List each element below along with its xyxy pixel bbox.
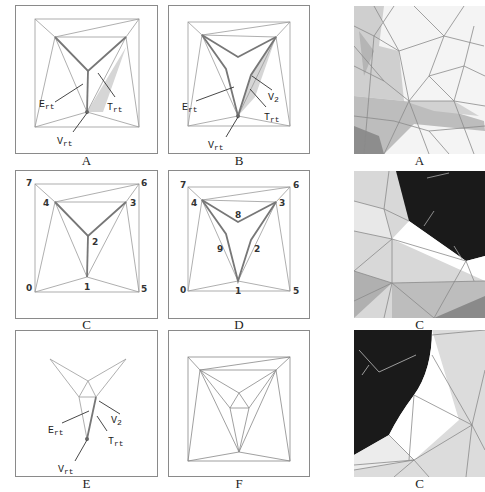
vertex-number: 6 xyxy=(293,180,299,190)
vertex-number: 8 xyxy=(235,210,241,220)
caption-render-a: A xyxy=(354,153,485,169)
vertex-number: 5 xyxy=(293,286,299,296)
triangle-label: Trt xyxy=(107,102,123,114)
v2-label: V2 xyxy=(111,415,122,427)
panel-d: 0 1 2 3 4 5 6 7 8 9 xyxy=(168,170,310,319)
vertex-label: Vrt xyxy=(208,140,224,152)
edge-label: Ert xyxy=(182,102,198,114)
vertex-number: 7 xyxy=(180,180,186,190)
caption-a: A xyxy=(15,153,158,169)
vertex-number: 4 xyxy=(43,198,49,208)
caption-render-c-2: C xyxy=(354,476,485,492)
vertex-number: 1 xyxy=(235,286,241,296)
panel-f xyxy=(168,330,310,477)
vertex-number: 0 xyxy=(26,283,32,293)
triangle-label: Trt xyxy=(108,436,124,448)
panel-c: 0 1 2 3 4 5 6 7 xyxy=(15,170,158,319)
edge-label: Ert xyxy=(39,99,55,111)
panel-e: Ert V2 Trt Vrt xyxy=(15,330,158,477)
panel-b: Ert V2 Trt Vrt xyxy=(168,5,310,154)
triangle-label: Trt xyxy=(264,112,280,124)
vertex-number: 5 xyxy=(141,284,147,294)
panel-a: Ert Trt Vrt xyxy=(15,5,158,154)
edge-label: Ert xyxy=(48,425,64,437)
vertex-label: Vrt xyxy=(57,136,73,148)
caption-f: F xyxy=(168,476,310,492)
vertex-number: 3 xyxy=(279,198,285,208)
vertex-number: 2 xyxy=(92,237,98,247)
vertex-number: 6 xyxy=(141,178,147,188)
vertex-label: Vrt xyxy=(58,464,74,476)
caption-e: E xyxy=(15,476,158,492)
vertex-number: 4 xyxy=(191,198,197,208)
vertex-number: 9 xyxy=(217,244,223,254)
vertex-number: 7 xyxy=(26,178,32,188)
render-c xyxy=(354,171,485,318)
vertex-number: 0 xyxy=(180,285,186,295)
vertex-number: 1 xyxy=(84,282,90,292)
vertex-number: 3 xyxy=(130,198,136,208)
caption-b: B xyxy=(168,153,310,169)
render-c-2 xyxy=(354,330,485,477)
render-a xyxy=(354,6,485,154)
vertex-number: 2 xyxy=(254,244,260,254)
v2-label: V2 xyxy=(268,92,279,104)
